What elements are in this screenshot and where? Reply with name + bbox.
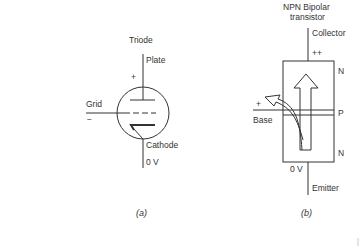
cathode-label: Cathode bbox=[146, 140, 178, 150]
caption-a: (a) bbox=[136, 208, 147, 218]
emitter-label: Emitter bbox=[312, 183, 339, 193]
region-n-top: N bbox=[338, 66, 344, 76]
collector-current-arrow bbox=[294, 74, 318, 150]
collector-polarity: ++ bbox=[312, 48, 322, 58]
emitter-voltage: 0 V bbox=[290, 164, 303, 174]
diagram-canvas: Triode Plate + Grid − Cathode 0 V (a) NP… bbox=[0, 0, 360, 248]
region-p: P bbox=[338, 108, 344, 118]
triode-figure: Triode Plate + Grid − Cathode 0 V (a) bbox=[86, 35, 178, 218]
grid-polarity: − bbox=[87, 114, 92, 124]
plate-polarity: + bbox=[131, 72, 136, 82]
transistor-title-line2: transistor bbox=[290, 12, 325, 22]
base-label: Base bbox=[253, 115, 273, 125]
cathode-voltage: 0 V bbox=[146, 157, 159, 167]
region-n-bottom: N bbox=[338, 148, 344, 158]
base-polarity: + bbox=[256, 99, 261, 109]
collector-label: Collector bbox=[312, 28, 346, 38]
caption-b: (b) bbox=[301, 208, 312, 218]
plate-label: Plate bbox=[146, 55, 166, 65]
grid-label: Grid bbox=[86, 99, 102, 109]
transistor-title-line1: NPN Bipolar bbox=[283, 2, 330, 12]
triode-title: Triode bbox=[129, 35, 153, 45]
transistor-figure: NPN Bipolar transistor Collector ++ N + … bbox=[253, 2, 346, 218]
